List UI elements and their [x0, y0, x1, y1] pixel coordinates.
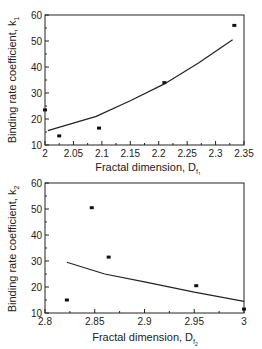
y-axis-label: Binding rate coefficient, k1 — [6, 17, 20, 144]
y-tick-label: 20 — [31, 114, 43, 125]
y-tick-label: 50 — [31, 204, 43, 215]
x-tick-label: 2.9 — [138, 316, 152, 327]
y-tick-label: 20 — [31, 282, 43, 293]
y-tick-label: 30 — [31, 256, 43, 267]
plot-frame — [45, 15, 244, 145]
y-axis-label: Binding rate coefficient, k2 — [6, 186, 20, 313]
data-point — [65, 299, 69, 302]
x-axis-label: Fractal dimension, Df2 — [92, 331, 198, 347]
x-tick-label: 2.35 — [234, 148, 254, 159]
x-tick-label: 2.25 — [177, 148, 197, 159]
data-point — [57, 134, 61, 137]
y-tick-label: 10 — [31, 140, 43, 151]
x-tick-label: 2.85 — [85, 316, 105, 327]
data-point — [194, 284, 198, 287]
y-tick-label: 40 — [31, 62, 43, 73]
y-tick-label: 10 — [31, 308, 43, 319]
data-point — [43, 108, 47, 111]
plot-area: 22.052.12.152.22.252.32.35102030405060 — [31, 10, 254, 159]
y-tick-label: 30 — [31, 88, 43, 99]
plot-frame — [45, 183, 244, 313]
x-tick-label: 2.95 — [185, 316, 205, 327]
plot-area: 2.82.852.92.953102030405060 — [31, 178, 247, 327]
x-tick-label: 2 — [42, 148, 48, 159]
data-point — [107, 256, 111, 259]
data-point — [232, 24, 236, 27]
data-point — [90, 206, 94, 209]
y-tick-label: 50 — [31, 36, 43, 47]
x-tick-label: 2.3 — [209, 148, 223, 159]
x-tick-label: 3 — [241, 316, 247, 327]
x-axis-label: Fractal dimension, Df1 — [95, 161, 201, 175]
y-tick-label: 60 — [31, 10, 43, 21]
x-tick-label: 2.05 — [64, 148, 84, 159]
fit-line — [67, 262, 244, 301]
y-tick-label: 60 — [31, 178, 43, 189]
data-point — [242, 308, 246, 311]
chart-k1-vs-df1: 22.052.12.152.22.252.32.35102030405060 F… — [0, 0, 262, 175]
chart-k2-vs-df2: 2.82.852.92.953102030405060 Fractal dime… — [0, 175, 262, 349]
x-tick-label: 2.15 — [121, 148, 141, 159]
fit-line — [48, 40, 233, 131]
x-tick-label: 2.2 — [152, 148, 166, 159]
x-tick-label: 2.1 — [95, 148, 109, 159]
data-point — [97, 127, 101, 130]
y-tick-label: 40 — [31, 230, 43, 241]
